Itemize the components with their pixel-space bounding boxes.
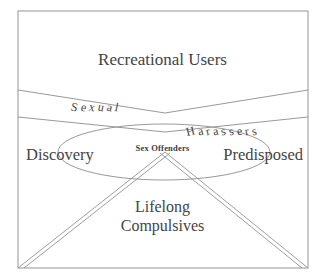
arc-letter: r: [204, 124, 211, 140]
region-label-lifelong-compulsives: Lifelong Compulsives: [0, 197, 325, 235]
arc-letter: S: [69, 100, 79, 116]
arc-letter: H: [184, 123, 196, 140]
band-lower-line: [18, 117, 308, 132]
arc-letter: a: [211, 124, 220, 140]
arc-letter: x: [87, 100, 96, 116]
arc-letter: s: [220, 124, 228, 140]
region-label-harassers: Harassers: [187, 124, 261, 139]
region-label-recreational-users: Recreational Users: [0, 50, 325, 70]
arc-letter: s: [227, 124, 235, 140]
arc-letter: l: [114, 100, 121, 115]
band-upper-line: [18, 90, 308, 113]
arc-letter: e: [79, 100, 88, 116]
diagram-vector-layer: [0, 0, 325, 280]
diagram-canvas: Recreational Users Sexual Harassers Disc…: [0, 0, 325, 280]
lifelong-line-2: Compulsives: [0, 216, 325, 235]
arc-letter: r: [243, 124, 250, 140]
arc-letter: u: [96, 100, 105, 116]
lifelong-line-1: Lifelong: [0, 197, 325, 216]
arc-letter: s: [250, 124, 258, 140]
arc-letter: a: [196, 124, 205, 140]
region-label-sex-offenders: Sex Offenders: [0, 143, 325, 153]
arc-letter: e: [235, 124, 244, 140]
region-label-sexual: Sexual: [70, 100, 121, 115]
